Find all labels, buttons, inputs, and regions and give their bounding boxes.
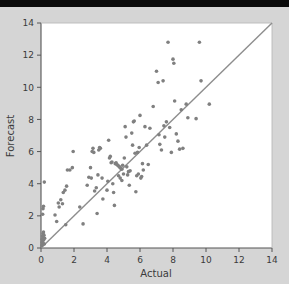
scatter-point (156, 81, 160, 85)
scatter-point (113, 204, 117, 208)
scatter-point (162, 124, 166, 128)
scatter-point (96, 173, 100, 177)
scatter-point (90, 176, 94, 180)
scatter-point (110, 160, 114, 164)
scatter-point (122, 172, 126, 176)
scatter-point (158, 143, 162, 147)
y-tick-label: 6 (28, 147, 34, 157)
scatter-point (141, 162, 145, 166)
scatter-point (94, 186, 98, 190)
scatter-point (57, 205, 61, 209)
y-tick-label: 8 (28, 115, 34, 125)
chart-figure: 0246810121402468101214 Actual Forecast (0, 0, 289, 284)
scatter-point (120, 167, 124, 171)
scatter-point (128, 169, 132, 173)
y-tick-label: 12 (23, 50, 34, 60)
scatter-point (145, 143, 149, 147)
scatter-point (127, 184, 131, 188)
scatter-point (43, 237, 47, 241)
x-tick-label: 2 (71, 255, 77, 265)
scatter-point (105, 188, 109, 192)
scatter-point (146, 163, 150, 167)
scatter-point (65, 184, 69, 188)
y-tick-label: 0 (28, 243, 34, 253)
x-tick-label: 8 (170, 255, 176, 265)
scatter-point (165, 120, 169, 124)
scatter-point (151, 105, 155, 109)
scatter-point (173, 99, 177, 103)
y-tick-label: 10 (23, 83, 35, 93)
scatter-point (71, 166, 75, 170)
scatter-point (64, 223, 68, 227)
scatter-point (184, 102, 188, 106)
scatter-point (179, 108, 183, 112)
scatter-point (132, 119, 136, 123)
scatter-point (148, 126, 152, 130)
scatter-point (78, 205, 82, 209)
x-tick-label: 0 (38, 255, 44, 265)
scatter-point (194, 117, 198, 121)
scatter-point (161, 79, 165, 83)
scatter-point (171, 57, 175, 61)
scatter-point (109, 155, 113, 159)
scatter-point (95, 212, 99, 216)
scatter-point (81, 222, 85, 226)
scatter-point (126, 173, 130, 177)
scatter-point (138, 114, 142, 118)
scatter-point (178, 147, 182, 151)
scatter-point (120, 179, 124, 183)
scatter-point (43, 242, 47, 246)
scatter-point (124, 135, 128, 139)
x-tick-label: 10 (200, 255, 212, 265)
scatter-point (176, 139, 180, 143)
scatter-point (43, 180, 47, 184)
scatter-point (106, 180, 110, 184)
scatter-point (168, 126, 172, 130)
scatter-point (101, 197, 105, 201)
scatter-point (107, 139, 111, 143)
scatter-point (112, 191, 116, 195)
y-tick-label: 4 (28, 179, 34, 189)
scatter-point (41, 212, 45, 216)
x-tick-label: 4 (104, 255, 110, 265)
scatter-point (123, 125, 127, 129)
scatter-point (59, 198, 63, 202)
scatter-point (136, 151, 140, 155)
scatter-point (134, 190, 138, 194)
scatter-point (100, 176, 104, 180)
scatter-point (123, 156, 127, 160)
scatter-point (143, 125, 147, 129)
scatter-point (208, 102, 212, 106)
scatter-point (92, 151, 96, 155)
scatter-point (125, 165, 129, 169)
scatter-point (130, 131, 134, 135)
scatter-point (42, 233, 46, 237)
scatter-point (121, 163, 125, 167)
scatter-point (199, 79, 203, 83)
scatter-point (57, 201, 61, 205)
y-tick-label: 2 (28, 211, 34, 221)
scatter-point (99, 147, 103, 151)
x-axis-title: Actual (140, 268, 171, 279)
scatter-point (142, 168, 146, 172)
scatter-point (140, 175, 144, 179)
scatter-plot: 0246810121402468101214 Actual Forecast (0, 0, 289, 284)
scatter-point (61, 202, 65, 206)
scatter-point (137, 146, 141, 150)
scatter-point (71, 150, 75, 154)
scatter-point (172, 61, 176, 65)
scatter-point (85, 184, 89, 188)
scatter-point (63, 188, 67, 192)
scatter-point (181, 147, 185, 151)
scatter-point (160, 148, 164, 152)
scatter-point (55, 220, 59, 224)
scatter-point (137, 172, 141, 176)
y-tick-label: 14 (23, 18, 35, 28)
scatter-point (155, 69, 159, 73)
x-tick-label: 14 (266, 255, 278, 265)
scatter-point (186, 116, 190, 120)
x-tick-label: 6 (137, 255, 143, 265)
scatter-point (93, 189, 97, 193)
scatter-point (163, 135, 167, 139)
scatter-point (53, 213, 57, 217)
